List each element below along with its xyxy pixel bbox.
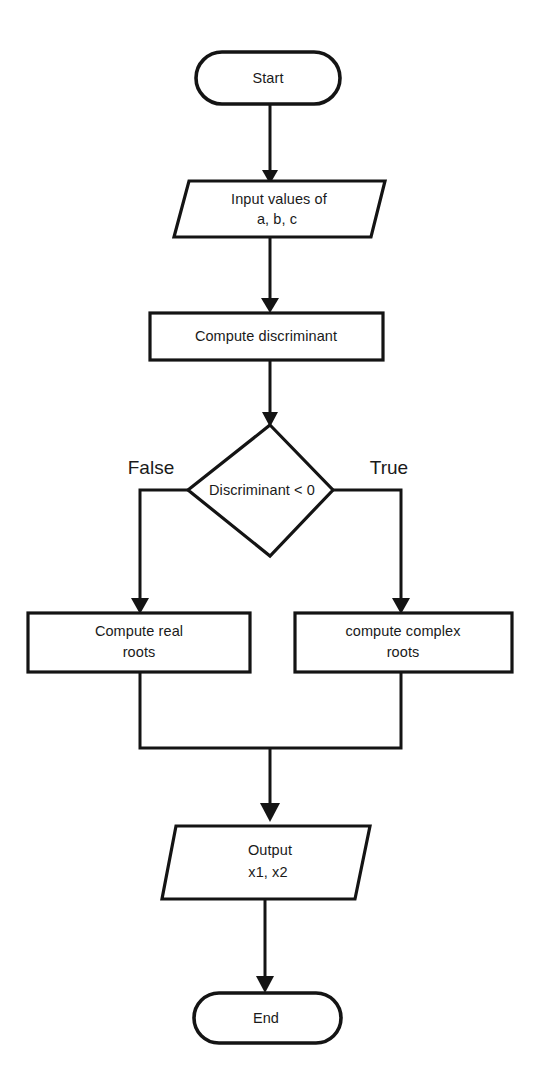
arrowhead-down-icon [260, 803, 280, 822]
compute-discriminant-label: Compute discriminant [195, 328, 337, 344]
connector-discriminant-to-decision [262, 360, 278, 427]
arrowhead-down-icon [261, 298, 279, 313]
node-output: Output x1, x2 [162, 826, 370, 899]
node-compute-real-roots: Compute real roots [28, 613, 250, 672]
compute-complex-roots-label-line1: compute complex [345, 623, 461, 639]
node-compute-complex-roots: compute complex roots [295, 613, 512, 672]
connector-merge-to-output [140, 672, 401, 822]
false-branch-label: False [128, 457, 174, 478]
connector-output-to-end [256, 899, 274, 993]
connector-input-to-discriminant [261, 237, 279, 313]
output-parallelogram-shape [162, 826, 370, 899]
output-label-line2: x1, x2 [248, 864, 287, 880]
node-end: End [194, 993, 341, 1043]
connector-line [140, 490, 188, 600]
output-label-line1: Output [248, 842, 292, 858]
decision-label: Discriminant < 0 [209, 482, 315, 498]
start-label: Start [252, 70, 283, 86]
end-label: End [253, 1010, 279, 1026]
node-decision: Discriminant < 0 [188, 425, 333, 556]
flowchart-canvas: Start Input values of a, b, c Compute di… [0, 0, 545, 1079]
node-compute-discriminant: Compute discriminant [150, 313, 383, 360]
node-start: Start [196, 52, 340, 104]
edge-false-branch: False [128, 457, 188, 614]
flowchart-diagram: Start Input values of a, b, c Compute di… [0, 0, 545, 1079]
input-label-line1: Input values of [231, 191, 328, 207]
node-input: Input values of a, b, c [174, 181, 385, 237]
connector-start-to-input [262, 104, 278, 184]
input-label-line2: a, b, c [257, 211, 297, 227]
compute-real-roots-label-line2: roots [123, 644, 156, 660]
connector-line [333, 490, 401, 600]
connector-merge-line [140, 672, 401, 748]
compute-real-roots-label-line1: Compute real [95, 623, 183, 639]
compute-complex-roots-label-line2: roots [387, 644, 420, 660]
input-parallelogram-shape [174, 181, 385, 237]
true-branch-label: True [370, 457, 408, 478]
arrowhead-down-icon [256, 976, 274, 993]
edge-true-branch: True [333, 457, 410, 614]
